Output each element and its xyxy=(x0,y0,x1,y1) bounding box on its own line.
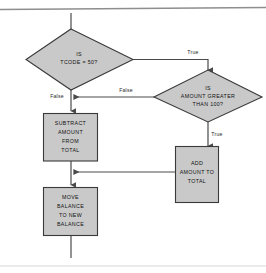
process-move-line-4: BALANCE xyxy=(57,221,84,227)
node-process-move[interactable]: MOVE BALANCE TO NEW BALANCE xyxy=(44,188,98,236)
process-add-line-2: AMOUNT TO xyxy=(180,169,215,175)
decision-tcode-line-2: TCODE = 50? xyxy=(60,59,97,65)
node-decision-amount[interactable]: IS AMOUNT GREATER THAN 100? xyxy=(154,70,262,122)
decision-amount-line-1: IS xyxy=(205,85,211,91)
process-subtract-line-4: TOTAL xyxy=(61,147,79,153)
node-process-subtract[interactable]: SUBTRACT AMOUNT FROM TOTAL xyxy=(44,114,98,162)
process-subtract-line-1: SUBTRACT xyxy=(55,120,87,126)
process-move-line-1: MOVE xyxy=(62,194,79,200)
top-divider-rule xyxy=(0,8,266,10)
process-add-line-1: ADD xyxy=(191,160,203,166)
decision-tcode-line-1: IS xyxy=(76,51,82,57)
edge-label-amount-true: True xyxy=(211,131,222,137)
process-move-line-2: BALANCE xyxy=(57,203,84,209)
edge-label-tcode-true: True xyxy=(187,49,198,55)
node-process-add[interactable]: ADD AMOUNT TO TOTAL xyxy=(176,147,219,203)
edge-label-tcode-false: False xyxy=(50,93,64,99)
decision-amount-line-3: THAN 100? xyxy=(193,101,224,107)
process-move-line-3: TO NEW xyxy=(59,212,82,218)
decision-amount-line-2: AMOUNT GREATER xyxy=(181,93,235,99)
flowchart-page: IS TCODE = 50? IS AMOUNT GREATER THAN 10… xyxy=(0,0,266,273)
process-subtract-line-3: FROM xyxy=(62,138,79,144)
flowchart-canvas: IS TCODE = 50? IS AMOUNT GREATER THAN 10… xyxy=(0,0,266,273)
process-subtract-line-2: AMOUNT xyxy=(58,129,83,135)
process-add-line-3: TOTAL xyxy=(188,178,206,184)
edge-label-amount-false: False xyxy=(119,87,133,93)
node-decision-tcode[interactable]: IS TCODE = 50? xyxy=(26,29,133,90)
connector-tcode-true xyxy=(133,60,208,71)
